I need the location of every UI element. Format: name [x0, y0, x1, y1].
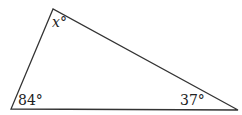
angle-label-top: x°	[52, 14, 67, 30]
angle-label-bottom-right: 37°	[180, 92, 205, 108]
triangle-diagram: x° 84° 37°	[0, 0, 242, 115]
angle-label-bottom-left: 84°	[18, 92, 43, 108]
